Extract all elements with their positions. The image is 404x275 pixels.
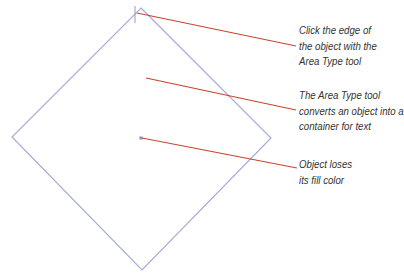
callout-line: its fill color [299, 173, 352, 189]
callout-line: Area Type tool [299, 54, 377, 70]
callout-line: Object loses [299, 157, 352, 173]
callout-line: converts an object into a [299, 104, 404, 120]
callout-line: container for text [299, 119, 404, 135]
callout-line: The Area Type tool [299, 88, 404, 104]
callout-click-edge: Click the edge of the object with the Ar… [299, 23, 377, 70]
callout-line: Click the edge of [299, 23, 377, 39]
leader-line-area-type [146, 78, 296, 110]
callout-line: the object with the [299, 39, 377, 55]
leader-line-loses-fill [142, 138, 297, 168]
leader-line-click-edge [137, 13, 296, 46]
callout-area-type-converts: The Area Type tool converts an object in… [299, 88, 404, 135]
callout-loses-fill: Object loses its fill color [299, 157, 352, 188]
